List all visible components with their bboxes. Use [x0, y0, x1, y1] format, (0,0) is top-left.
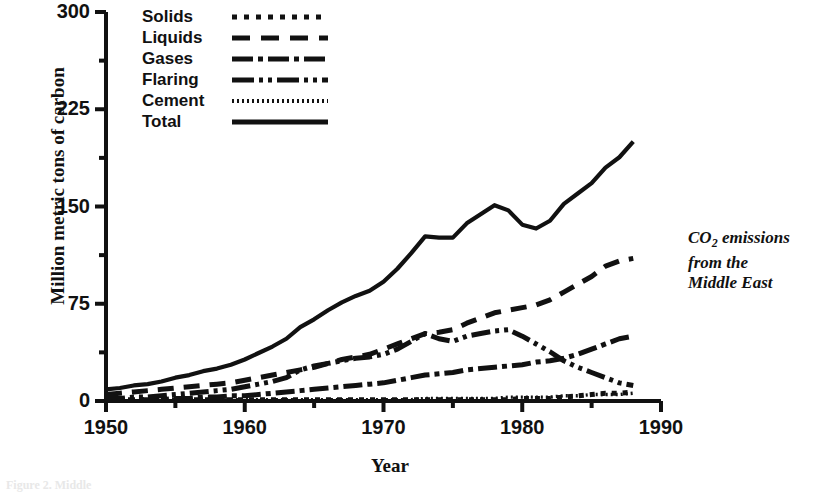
annotation-line-2: from the: [688, 253, 838, 273]
figure-caption: Figure 2. Middle: [6, 478, 91, 493]
legend-label-flaring: Flaring: [142, 71, 228, 88]
legend-swatch-gases: [230, 50, 330, 68]
legend-item-total: Total: [142, 111, 330, 132]
legend-label-gases: Gases: [142, 50, 228, 67]
legend-item-cement: Cement: [142, 90, 330, 111]
legend-label-total: Total: [142, 113, 228, 130]
legend-item-flaring: Flaring: [142, 69, 330, 90]
legend: Solids Liquids Gases Flaring Cement Tota…: [142, 6, 330, 132]
legend-swatch-liquids: [230, 29, 330, 47]
legend-swatch-total: [230, 113, 330, 131]
chart-annotation: CO2 emissions from the Middle East: [688, 228, 838, 293]
series-gases: [106, 336, 633, 400]
annotation-line-1: CO2 emissions: [688, 228, 838, 253]
legend-swatch-solids: [230, 8, 330, 26]
legend-swatch-flaring: [230, 71, 330, 89]
figure-co2-middle-east: Million metric tons of carbon Year 07515…: [0, 0, 839, 496]
legend-item-liquids: Liquids: [142, 27, 330, 48]
series-lines: [106, 142, 633, 401]
legend-item-solids: Solids: [142, 6, 330, 27]
legend-item-gases: Gases: [142, 48, 330, 69]
legend-label-cement: Cement: [142, 92, 228, 109]
legend-label-solids: Solids: [142, 8, 228, 25]
legend-label-liquids: Liquids: [142, 29, 228, 46]
annotation-line-3: Middle East: [688, 273, 838, 293]
legend-swatch-cement: [230, 92, 330, 110]
